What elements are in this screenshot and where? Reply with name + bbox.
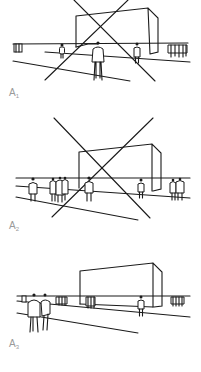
people-group-right xyxy=(171,297,184,306)
people-group-left xyxy=(14,44,22,52)
panel-a1: A1 xyxy=(0,0,201,118)
panel-a2: A2 xyxy=(0,115,201,240)
perspective-sketch-a2 xyxy=(0,115,201,240)
people-group-center-left xyxy=(56,297,67,305)
perspective-sketch-a3 xyxy=(0,240,201,372)
panel-label-a1: A1 xyxy=(9,88,19,99)
people-group-right xyxy=(168,45,187,57)
person-right xyxy=(134,43,140,64)
panel-label-a2: A2 xyxy=(9,221,19,232)
panel-label-a3: A3 xyxy=(9,339,19,350)
person-foreground xyxy=(92,41,104,80)
people-group-center-left xyxy=(50,177,68,202)
person-small-left xyxy=(60,44,65,59)
people-group-center xyxy=(86,297,95,308)
perspective-sketch-a1 xyxy=(0,0,201,118)
people-pair-foreground xyxy=(28,293,50,332)
panel-a3: A3 xyxy=(0,240,201,372)
person-left xyxy=(29,177,37,201)
person-small-left xyxy=(22,296,26,302)
